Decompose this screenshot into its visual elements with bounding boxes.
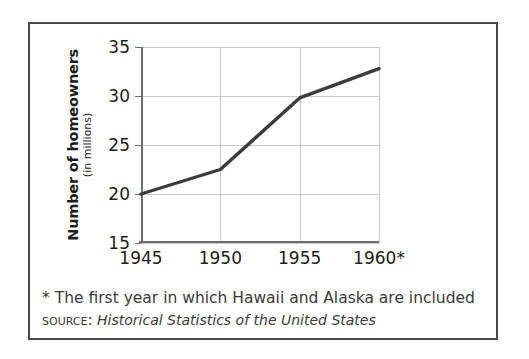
data-line-series (141, 47, 379, 243)
y-axis-tick-label: 20 (108, 184, 130, 204)
y-axis-title-units: (in millions) (82, 113, 94, 177)
gridline-vertical (379, 47, 380, 243)
source-title: Historical Statistics of the United Stat… (97, 312, 376, 328)
plot-area: 3530252015 1945195019551960* (141, 47, 379, 243)
footnote-asterisk-note: * The first year in which Hawaii and Ala… (42, 288, 490, 309)
plot-wrapper: 3530252015 1945195019551960* (112, 34, 472, 284)
homeowners-line (141, 69, 379, 194)
y-axis-tick-label: 30 (108, 86, 130, 106)
y-axis-title-inner: Number of homeowners (in millions) (66, 49, 94, 241)
figure-frame: Number of homeowners (in millions) 35302… (28, 22, 498, 340)
x-axis-tick-label: 1955 (278, 248, 321, 268)
x-axis-tick-label: 1960* (353, 248, 405, 268)
y-axis-title-main: Number of homeowners (66, 49, 81, 241)
footnote-block: * The first year in which Hawaii and Ala… (42, 288, 490, 331)
y-axis-tick-label: 25 (108, 135, 130, 155)
source-line: Source: Historical Statistics of the Uni… (42, 310, 490, 331)
x-axis-tick-label: 1950 (199, 248, 242, 268)
y-axis-title: Number of homeowners (in millions) (48, 30, 112, 260)
source-label: Source: (42, 311, 93, 329)
gridline-horizontal (141, 243, 379, 244)
x-axis-tick-label: 1945 (119, 248, 162, 268)
y-axis-tick (135, 243, 141, 244)
y-axis-tick-label: 35 (108, 37, 130, 57)
